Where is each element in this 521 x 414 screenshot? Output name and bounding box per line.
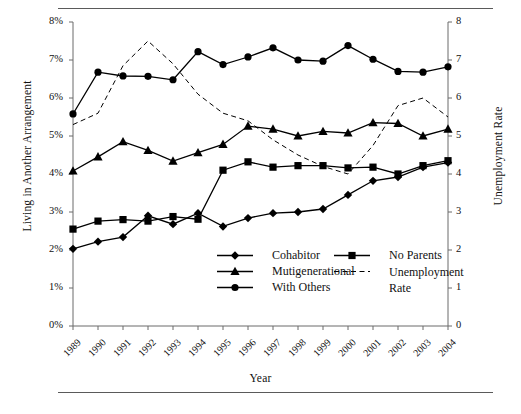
y-axis-left-tick: 0% — [33, 319, 63, 330]
series-no-parents — [69, 157, 451, 233]
legend-marker-cohabitor — [217, 251, 253, 259]
y-axis-left-tick: 4% — [33, 167, 63, 178]
y-axis-left-title: Living in Another Arrangement — [21, 36, 33, 276]
y-axis-right-tick: 7 — [456, 53, 486, 64]
y-axis-left-tick: 7% — [33, 53, 63, 64]
y-axis-right-tick: 3 — [456, 205, 486, 216]
figure-container: Living in Another Arrangement Unemployme… — [0, 0, 521, 414]
legend-label-with-others: With Others — [272, 280, 331, 295]
legend-marker-no-parents — [334, 252, 370, 259]
series-mutigenerational — [68, 118, 452, 175]
y-axis-right-tick: 8 — [456, 15, 486, 26]
y-axis-right-title: Unemployment Rate — [492, 36, 504, 276]
y-axis-right-tick: 0 — [456, 319, 486, 330]
y-axis-left-tick: 1% — [33, 281, 63, 292]
y-axis-left-tick: 6% — [33, 91, 63, 102]
series-with-others — [69, 42, 451, 118]
y-axis-left-tick: 2% — [33, 243, 63, 254]
legend-marker-mutigenerational — [217, 267, 253, 275]
legend-marker-with-others — [217, 284, 253, 291]
series-unemployment-rate — [73, 41, 448, 174]
legend-label-no-parents: No Parents — [389, 248, 442, 263]
y-axis-right-tick: 6 — [456, 91, 486, 102]
y-axis-right-tick: 2 — [456, 243, 486, 254]
y-axis-left-tick: 5% — [33, 129, 63, 140]
legend-label-unemployment-rate: UnemploymentRate — [389, 264, 464, 296]
figure-caption — [58, 400, 493, 412]
y-axis-right-tick: 4 — [456, 167, 486, 178]
legend-label-cohabitor: Cohabitor — [272, 248, 320, 263]
y-axis-right-tick: 5 — [456, 129, 486, 140]
y-axis-left-tick: 3% — [33, 205, 63, 216]
y-axis-left-tick: 8% — [33, 15, 63, 26]
legend-label-mutigenerational: Mutigenerational — [272, 264, 355, 279]
